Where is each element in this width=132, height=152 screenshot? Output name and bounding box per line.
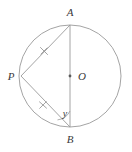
geometry-figure: A B P O y xyxy=(0,0,132,152)
geometry-canvas: A B P O y xyxy=(0,0,132,152)
segment-pa xyxy=(21,25,70,76)
label-point-a: A xyxy=(66,6,74,18)
label-point-p: P xyxy=(7,70,15,82)
segment-pb xyxy=(21,76,70,127)
tick-mark-pb xyxy=(39,101,47,108)
center-dot-o xyxy=(69,75,72,78)
label-point-b: B xyxy=(67,133,74,145)
tick-mark-pa xyxy=(40,47,48,55)
label-point-o: O xyxy=(78,70,86,82)
label-angle-y: y xyxy=(62,108,68,119)
